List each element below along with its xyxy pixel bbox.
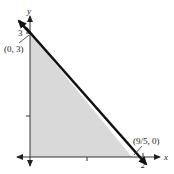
x-tick-label-2: 2 <box>141 161 145 170</box>
point-label-9-5-0: (9/5, 0) <box>133 136 160 146</box>
point-label-0-3: (0, 3) <box>4 44 24 54</box>
x-axis-label: x <box>163 152 168 162</box>
graph: y x 3 2 (0, 3) (9/5, 0) <box>0 0 174 174</box>
y-axis-label: y <box>26 6 31 16</box>
y-tick-label-3: 3 <box>18 28 23 38</box>
